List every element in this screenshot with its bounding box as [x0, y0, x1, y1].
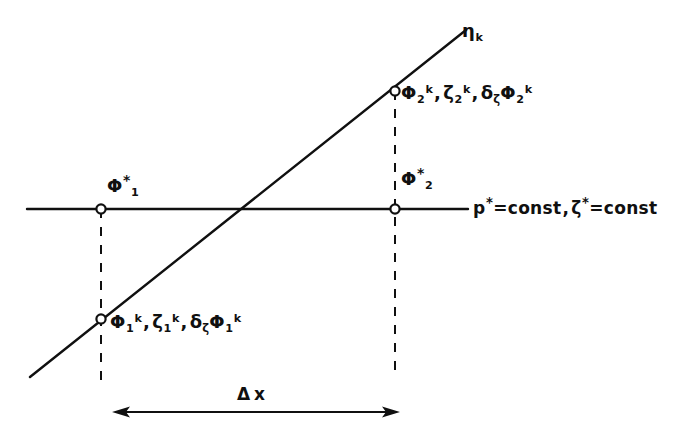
- phi2star-symbol: Φ: [401, 168, 417, 189]
- p-symbol: p: [473, 198, 485, 218]
- phi1star-subscript: 1: [131, 186, 139, 199]
- phi2-star-label: Φ*2: [401, 166, 433, 191]
- delta-operator: δ: [481, 82, 494, 103]
- separator-2: ,: [471, 82, 481, 103]
- node-lower-left: [96, 314, 105, 323]
- phi1star-superscript: *: [123, 172, 131, 188]
- node-upper-right-label: Φ2k,ζ2k,δζΦ2k: [401, 84, 532, 105]
- delta-x-label: Δ x: [237, 386, 265, 403]
- separator-5: ,: [561, 198, 571, 218]
- node-lower-left-label: Φ1k,ζ1k,δζΦ1k: [110, 313, 241, 334]
- diagram-canvas: ηk Φ2k,ζ2k,δζΦ2k Φ1k,ζ1k,δζΦ1k Φ*1 Φ*2 p…: [0, 0, 691, 440]
- zeta-const-value: =const: [589, 198, 657, 218]
- phi1-star-node: [96, 204, 105, 213]
- separator-1: ,: [433, 82, 443, 103]
- x-variable: x: [254, 384, 265, 404]
- phi1k-subscript: 1: [126, 322, 134, 335]
- zeta1k-symbol: ζ: [152, 311, 163, 332]
- phi2star-superscript: *: [417, 165, 425, 181]
- constant-surface-label: p*=const,ζ*=const: [473, 196, 657, 217]
- phi1-star-label: Φ*1: [107, 173, 139, 198]
- phi2k-subscript: 2: [417, 93, 425, 106]
- zeta2k-symbol: ζ: [443, 82, 454, 103]
- zeta2k-superscript: k: [462, 83, 470, 96]
- delta-phi2k-symbol: Φ: [500, 82, 516, 103]
- phi1k-superscript: k: [134, 312, 142, 325]
- delta-phi2k-superscript: k: [524, 83, 532, 96]
- eta-symbol: η: [462, 20, 475, 41]
- zeta1k-superscript: k: [171, 312, 179, 325]
- delta-operator-lower: δ: [190, 311, 203, 332]
- delta-phi1k-superscript: k: [233, 312, 241, 325]
- phi1star-symbol: Φ: [107, 175, 123, 196]
- phi2k-superscript: k: [425, 83, 433, 96]
- phi2k-symbol: Φ: [401, 82, 417, 103]
- eta-k-label: ηk: [462, 22, 483, 43]
- separator-4: ,: [180, 311, 190, 332]
- delta-x-arrow: [112, 407, 400, 418]
- p-const-value: =const: [493, 198, 561, 218]
- delta-phi1k-subscript: 1: [225, 322, 233, 335]
- eta-subscript: k: [475, 31, 483, 44]
- separator-3: ,: [142, 311, 152, 332]
- zeta-star-symbol: ζ: [571, 198, 581, 218]
- delta-phi1k-symbol: Φ: [209, 311, 225, 332]
- diagram-vector-layer: [0, 0, 691, 440]
- phi2-star-node: [390, 204, 399, 213]
- phi2star-subscript: 2: [425, 179, 433, 192]
- delta-symbol: Δ: [237, 384, 250, 404]
- delta-phi2k-subscript: 2: [516, 93, 524, 106]
- phi1k-symbol: Φ: [110, 311, 126, 332]
- node-upper-right: [390, 86, 399, 95]
